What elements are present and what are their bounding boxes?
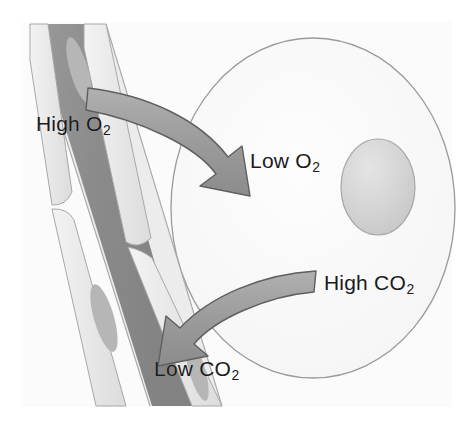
label-low-co2-text: Low CO [154,357,231,380]
label-high-co2-subscript: 2 [406,281,414,297]
label-high-co2: High CO2 [324,272,414,293]
label-high-o2-text: High O [36,112,103,135]
label-high-o2: High O2 [36,113,110,134]
label-low-o2-subscript: 2 [312,159,320,175]
label-high-co2-text: High CO [324,271,406,294]
label-low-o2-text: Low O [250,149,312,172]
label-low-co2-subscript: 2 [232,367,240,383]
label-high-o2-subscript: 2 [103,122,111,138]
gas-exchange-diagram: High O2 Low O2 High CO2 Low CO2 [0,0,463,428]
body-cell-nucleus [341,139,415,235]
label-low-co2: Low CO2 [154,358,239,379]
label-low-o2: Low O2 [250,150,320,171]
